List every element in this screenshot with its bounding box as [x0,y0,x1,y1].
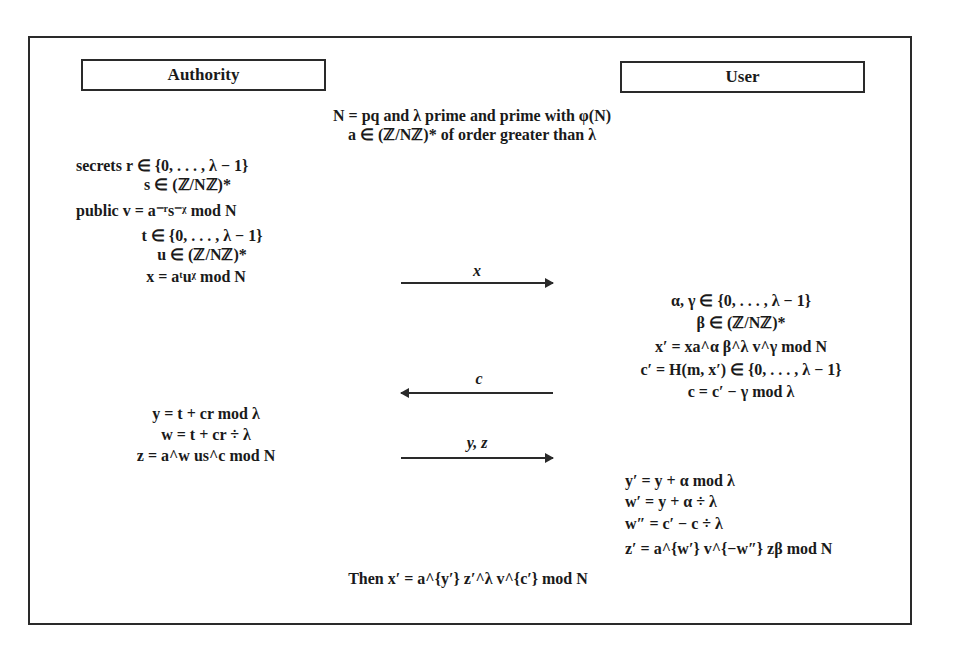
user-w-prime: w′ = y + α ÷ λ [625,493,717,511]
user-beta: β ∈ (ℤ/Nℤ)* [696,314,785,332]
message-c-label: c [475,370,482,388]
authority-secret-s: s ∈ (ℤ/Nℤ)* [144,176,231,194]
authority-u: u ∈ (ℤ/Nℤ)* [157,246,247,264]
user-alpha-gamma: α, γ ∈ {0, . . . , λ − 1} [671,292,811,310]
setup-line-2: a ∈ (ℤ/Nℤ)* of order greater than λ [348,126,596,144]
user-box: User [620,61,865,93]
message-x-label: x [473,262,481,280]
authority-y: y = t + cr mod λ [152,405,260,423]
user-c-prime: c′ = H(m, x′) ∈ {0, . . . , λ − 1} [640,361,841,379]
authority-label: Authority [168,65,240,85]
verification-equation: Then x′ = a^{y′} z′^λ v^{c′} mod N [348,570,588,588]
arrow-right-icon [401,457,553,459]
user-y-prime: y′ = y + α mod λ [625,472,735,490]
user-c: c = c′ − γ mod λ [688,383,795,401]
user-w-double-prime: w″ = c′ − c ÷ λ [625,515,723,533]
authority-w: w = t + cr ÷ λ [161,426,251,444]
user-x-prime: x′ = xa^α β^λ v^γ mod N [655,338,827,356]
authority-z: z = a^w us^c mod N [137,447,275,465]
authority-secret-r: secrets r ∈ {0, . . . , λ − 1} [76,157,248,175]
authority-public-v: public v = a⁻ʳs⁻ᵡ mod N [76,202,236,220]
authority-x: x = aᵗuᵡ mod N [146,268,246,286]
authority-t: t ∈ {0, . . . , λ − 1} [142,227,263,245]
arrow-left-icon [401,392,553,394]
setup-line-1: N = pq and λ prime and prime with φ(N) [333,107,611,125]
user-label: User [726,67,760,87]
message-yz-label: y, z [467,434,488,452]
user-z-prime: z′ = a^{w′} v^{−w″} zβ mod N [625,540,832,558]
arrow-right-icon [401,282,553,284]
authority-box: Authority [81,59,326,91]
